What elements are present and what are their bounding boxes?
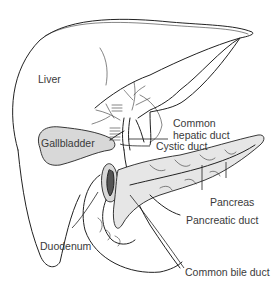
leader-cystic <box>120 144 150 146</box>
gallbladder-neck <box>110 131 124 140</box>
hatched-vessels <box>110 105 122 140</box>
label-common-bile-duct: Common bile duct <box>185 266 270 278</box>
pancreas-lower <box>150 195 180 215</box>
label-cystic-duct: Cystic duct <box>156 140 207 152</box>
anatomy-diagram: Liver Common hepatic duct Gallbladder Cy… <box>0 0 275 281</box>
liver-fissure <box>100 48 107 85</box>
label-gallbladder: Gallbladder <box>41 137 95 149</box>
label-duodenum: Duodenum <box>40 240 91 252</box>
label-pancreatic-duct: Pancreatic duct <box>186 214 258 226</box>
label-pancreas: Pancreas <box>210 196 254 208</box>
label-liver: Liver <box>38 73 61 85</box>
label-common-hepatic-duct-1: Common <box>173 117 216 129</box>
hepatic-branches-right <box>124 82 150 110</box>
